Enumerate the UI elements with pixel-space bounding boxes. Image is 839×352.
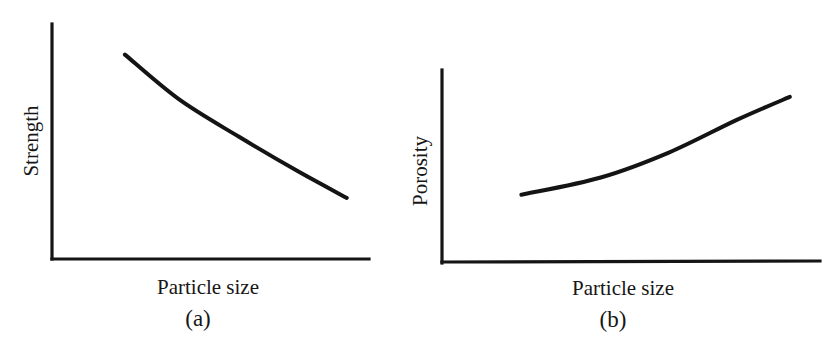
figure: Strength Particle size (a) Porosity Part… bbox=[0, 0, 839, 352]
panel-a-strength-curve bbox=[125, 55, 347, 198]
panel-a-x-axis-label: Particle size bbox=[157, 277, 259, 298]
panel-b-porosity-curve bbox=[521, 97, 789, 195]
panel-a-caption: (a) bbox=[185, 307, 211, 330]
panel-b-caption: (b) bbox=[600, 308, 627, 331]
panel-a-axes bbox=[52, 24, 369, 259]
panel-b-x-axis bbox=[442, 261, 820, 262]
panel-a-y-axis-label: Strength bbox=[21, 105, 42, 176]
panel-b-x-axis-label: Particle size bbox=[572, 278, 674, 299]
panel-b-y-axis-label: Porosity bbox=[410, 136, 431, 206]
